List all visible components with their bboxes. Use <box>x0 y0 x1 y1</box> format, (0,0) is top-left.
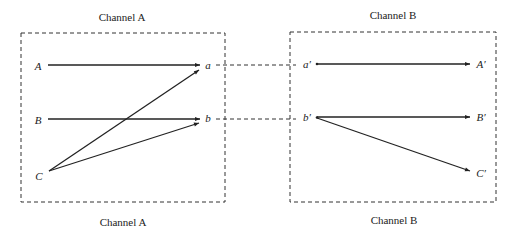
node-b-prime: b′ <box>303 111 311 123</box>
edge-b-prime-C-prime <box>317 118 470 171</box>
node-C: C <box>35 170 42 182</box>
node-a-prime: a′ <box>303 58 311 70</box>
node-a: a <box>205 59 211 71</box>
edge-C-b <box>49 123 199 171</box>
node-B: B <box>35 114 42 126</box>
node-A-prime: A′ <box>476 58 485 70</box>
channel-b-title-bottom: Channel B <box>371 214 418 226</box>
node-B-prime: B′ <box>476 111 485 123</box>
node-A: A <box>35 60 42 72</box>
channel-diagram <box>0 0 514 241</box>
node-b: b <box>205 112 211 124</box>
channel-a-box <box>21 33 225 202</box>
channel-a-title-bottom: Channel A <box>100 216 147 228</box>
edge-C-a <box>49 70 199 171</box>
node-C-prime: C′ <box>476 167 486 179</box>
channel-b-title-top: Channel B <box>370 9 417 21</box>
channel-a-title-top: Channel A <box>99 11 146 23</box>
